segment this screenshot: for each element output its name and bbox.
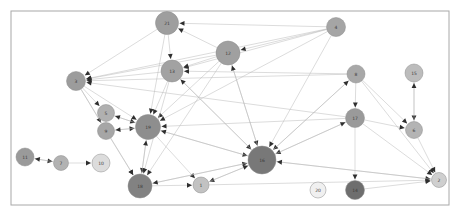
node-circle[interactable] bbox=[406, 122, 423, 139]
graph-node[interactable]: 13 bbox=[161, 60, 183, 82]
graph-node[interactable]: 10 bbox=[92, 154, 110, 172]
graph-node[interactable]: 5 bbox=[98, 105, 115, 122]
node-circle[interactable] bbox=[405, 64, 423, 82]
node-circle[interactable] bbox=[193, 177, 209, 193]
node-circle[interactable] bbox=[92, 154, 110, 172]
figure-canvas: 214121338155179196117101621812014 bbox=[0, 0, 460, 217]
node-circle[interactable] bbox=[54, 156, 69, 171]
node-circle[interactable] bbox=[156, 12, 179, 35]
node-circle[interactable] bbox=[310, 182, 326, 198]
node-circle[interactable] bbox=[216, 41, 240, 65]
graph-node[interactable]: 6 bbox=[406, 122, 423, 139]
graph-node[interactable]: 20 bbox=[310, 182, 326, 198]
graph-node[interactable]: 17 bbox=[346, 109, 365, 128]
graph-node[interactable]: 9 bbox=[98, 123, 115, 140]
graph-node[interactable]: 14 bbox=[346, 181, 365, 200]
network-graph: 214121338155179196117101621812014 bbox=[0, 0, 460, 217]
graph-node[interactable]: 7 bbox=[54, 156, 69, 171]
graph-node[interactable]: 4 bbox=[327, 18, 346, 37]
node-circle[interactable] bbox=[128, 174, 152, 198]
node-circle[interactable] bbox=[98, 123, 115, 140]
graph-node[interactable]: 1 bbox=[193, 177, 209, 193]
graph-node[interactable]: 8 bbox=[347, 65, 365, 83]
graph-node[interactable]: 3 bbox=[67, 72, 86, 91]
graph-node[interactable]: 21 bbox=[156, 12, 179, 35]
node-circle[interactable] bbox=[327, 18, 346, 37]
node-circle[interactable] bbox=[346, 109, 365, 128]
graph-node[interactable]: 18 bbox=[128, 174, 152, 198]
node-circle[interactable] bbox=[161, 60, 183, 82]
node-circle[interactable] bbox=[347, 65, 365, 83]
graph-node[interactable]: 11 bbox=[16, 148, 34, 166]
node-circle[interactable] bbox=[136, 115, 161, 140]
node-circle[interactable] bbox=[432, 173, 447, 188]
node-circle[interactable] bbox=[98, 105, 115, 122]
node-circle[interactable] bbox=[346, 181, 365, 200]
node-circle[interactable] bbox=[67, 72, 86, 91]
node-circle[interactable] bbox=[248, 146, 276, 174]
graph-node[interactable]: 16 bbox=[248, 146, 276, 174]
graph-node[interactable]: 2 bbox=[432, 173, 447, 188]
node-circle[interactable] bbox=[16, 148, 34, 166]
graph-node[interactable]: 12 bbox=[216, 41, 240, 65]
graph-node[interactable]: 19 bbox=[136, 115, 161, 140]
graph-node[interactable]: 15 bbox=[405, 64, 423, 82]
plot-frame bbox=[11, 11, 449, 205]
